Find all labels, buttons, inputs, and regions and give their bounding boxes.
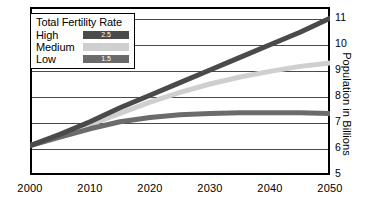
legend-swatch-high: 2.5 — [83, 31, 129, 39]
x-tick-label: 2040 — [257, 182, 282, 194]
y-axis-title: Population in Billions — [341, 52, 353, 156]
x-tick-label: 2010 — [77, 182, 102, 194]
legend-item-low: Low 1.5 — [36, 53, 129, 65]
legend-item-medium: Medium 2.0 — [36, 41, 129, 53]
legend-label: Low — [36, 53, 56, 65]
x-tick-label: 2030 — [197, 182, 222, 194]
x-tick-label: 2020 — [137, 182, 162, 194]
legend-label: High — [36, 29, 58, 41]
legend-item-high: High 2.5 — [36, 29, 129, 41]
legend-title: Total Fertility Rate — [36, 16, 129, 29]
x-tick-label: 2000 — [17, 182, 42, 194]
population-projection-chart: 11 10 9 8 7 6 5 Population in Billions 2… — [0, 0, 371, 208]
y-tick-label: 10 — [335, 38, 347, 49]
legend-label: Medium — [36, 41, 75, 53]
y-tick-label: 5 — [335, 168, 341, 179]
y-tick-label: 11 — [335, 12, 346, 23]
legend-swatch-low: 1.5 — [83, 55, 129, 63]
x-tick-label: 2050 — [317, 182, 342, 194]
legend: Total Fertility Rate High 2.5 Medium 2.0… — [30, 13, 135, 69]
legend-swatch-medium: 2.0 — [83, 43, 129, 51]
